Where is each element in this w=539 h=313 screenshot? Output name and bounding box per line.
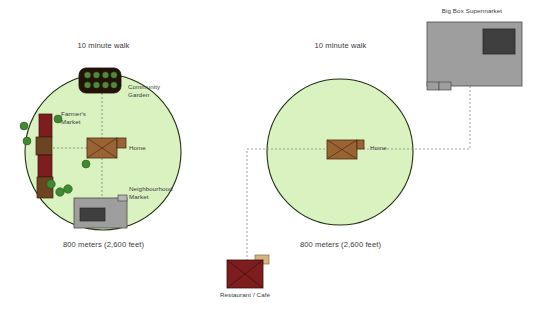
title-left: 10 minute walk — [46, 41, 161, 50]
community-garden-shape — [79, 68, 121, 93]
label-farmers-market: Farmer's Market — [61, 110, 103, 126]
neighbourhood-market-shape — [74, 195, 127, 228]
restaurant-cafe-shape — [227, 255, 269, 288]
label-home-right: Home — [370, 144, 402, 152]
diagram-canvas: 10 minute walk 800 meters (2,600 feet) C… — [0, 0, 539, 313]
label-big-box-supermarket: Big Box Supermarket — [417, 7, 527, 15]
label-neighbourhood-market: Neighbourhood Market — [129, 185, 181, 201]
scale-caption-left: 800 meters (2,600 feet) — [46, 240, 161, 249]
label-community-garden: Community Garden — [128, 83, 174, 99]
title-right: 10 minute walk — [283, 41, 398, 50]
big-box-supermarket-shape — [427, 22, 522, 90]
label-restaurant-cafe: Restaurant / Café — [200, 291, 290, 299]
label-home-left: Home — [129, 144, 161, 152]
scale-caption-right: 800 meters (2,600 feet) — [283, 240, 398, 249]
